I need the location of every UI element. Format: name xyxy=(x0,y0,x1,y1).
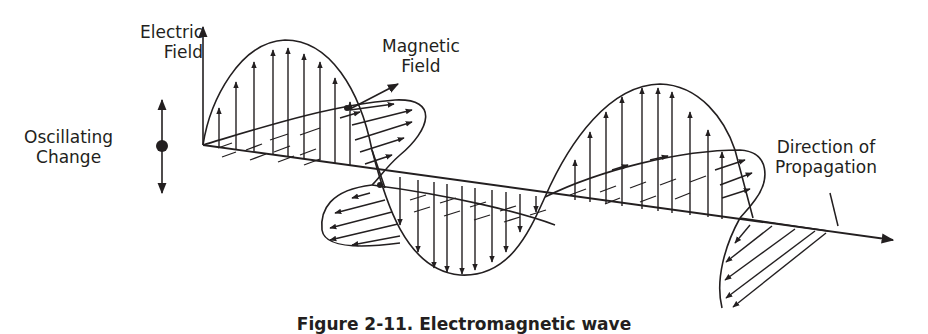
electric-lobe-2 xyxy=(372,150,545,275)
direction-label-line2: Propagation xyxy=(775,157,877,177)
magnetic-lobe-4 xyxy=(720,218,828,308)
oscillating-charge xyxy=(156,100,168,193)
electric-field-label-line1: Electric xyxy=(140,22,203,42)
magnetic-field-label-line1: Magnetic xyxy=(382,36,460,56)
oscillating-charge-label-line1: Oscillating xyxy=(24,127,113,147)
oscillating-charge-label-line2: Change xyxy=(24,147,113,167)
magnetic-field-label-line2: Field xyxy=(382,56,460,76)
figure-caption: Figure 2-11. Electromagnetic wave xyxy=(0,314,928,334)
direction-pointer-line xyxy=(830,193,838,226)
electric-field-label: Electric Field xyxy=(140,22,203,62)
magnetic-field-label: Magnetic Field xyxy=(382,36,460,76)
direction-of-propagation-label: Direction of Propagation xyxy=(775,137,877,177)
electric-field-label-line2: Field xyxy=(140,42,203,62)
oscillating-charge-label: Oscillating Change xyxy=(24,127,113,167)
direction-label-line1: Direction of xyxy=(775,137,877,157)
